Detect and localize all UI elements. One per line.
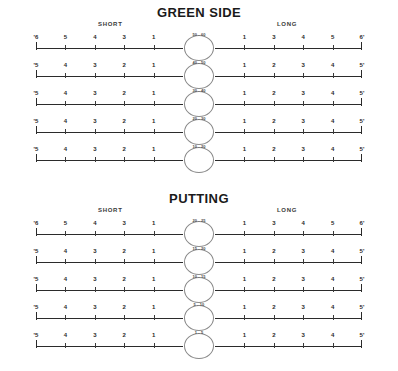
tick-mark [65, 129, 66, 134]
tick-mark [244, 157, 245, 162]
tick-label-left: 2 [123, 304, 126, 310]
target-circle[interactable] [184, 63, 214, 89]
tick-mark [124, 231, 125, 236]
axis-line-left [36, 104, 183, 105]
tick-mark [154, 101, 155, 106]
tick-mark [333, 157, 334, 162]
tick-label-left: 1 [152, 62, 155, 68]
tick-label-right: 1 [243, 118, 246, 124]
tick-mark [124, 73, 125, 78]
tick-label-right: 1 [243, 62, 246, 68]
tick-label-right: 2 [272, 146, 275, 152]
tick-label-left: 4 [64, 146, 67, 152]
target-circle[interactable] [184, 277, 214, 303]
target-circle[interactable] [184, 91, 214, 117]
tick-mark [154, 287, 155, 292]
tick-label-right: 3 [302, 332, 305, 338]
tick-label-left: 1 [152, 332, 155, 338]
tick-label-right: 1 [243, 304, 246, 310]
tick-mark [124, 129, 125, 134]
tick-label-right: 2 [272, 276, 275, 282]
axis-line-left [36, 318, 183, 319]
tick-mark [244, 315, 245, 320]
tick-label-left: 1 [152, 90, 155, 96]
tick-label-right: 1 [243, 220, 246, 226]
tick-mark [274, 45, 275, 50]
axis-endcap [36, 126, 37, 134]
target-circle[interactable] [184, 147, 214, 173]
tick-label-right: 2 [272, 332, 275, 338]
tick-mark [274, 101, 275, 106]
target-circle[interactable] [184, 333, 214, 359]
tick-mark [95, 157, 96, 162]
zone-label-short: SHORT [98, 21, 123, 27]
scale-row: '5432112345'5 - 10 [0, 302, 398, 330]
tick-label-left: 4 [64, 118, 67, 124]
tick-mark [333, 287, 334, 292]
tick-label-right: 3 [272, 34, 275, 40]
tick-mark [303, 231, 304, 236]
zone-label-long: LONG [277, 21, 297, 27]
tick-mark [333, 45, 334, 50]
zone-label-long: LONG [277, 207, 297, 213]
tick-label-left: 3 [93, 118, 96, 124]
tick-label-right: 4 [331, 62, 334, 68]
tick-mark [65, 315, 66, 320]
tick-mark [154, 259, 155, 264]
tick-mark [124, 157, 125, 162]
tick-mark [154, 315, 155, 320]
tick-label-left: 4 [93, 34, 96, 40]
target-circle[interactable] [184, 221, 214, 247]
axis-endpoint-label-left: '5 [34, 248, 39, 254]
tick-label-left: 4 [64, 332, 67, 338]
distance-range-label: 15 - 20 [192, 246, 205, 251]
tick-label-right: 2 [272, 248, 275, 254]
tick-label-right: 4 [331, 118, 334, 124]
scale-row: '6543113456'20 - 25 [0, 218, 398, 246]
tick-mark [303, 129, 304, 134]
target-circle[interactable] [184, 305, 214, 331]
tick-label-right: 3 [302, 304, 305, 310]
scale-row: '5432112345'1 - 5 [0, 330, 398, 358]
tick-mark [274, 259, 275, 264]
zone-label-short: SHORT [98, 207, 123, 213]
axis-endcap [36, 340, 37, 348]
target-circle[interactable] [184, 35, 214, 61]
tick-label-right: 4 [331, 90, 334, 96]
axis-endcap [361, 256, 362, 264]
tick-mark [95, 73, 96, 78]
distance-range-label: 40 - 50 [192, 60, 205, 65]
tick-label-right: 5 [331, 220, 334, 226]
distance-range-label: 5 - 10 [194, 302, 205, 307]
axis-endpoint-label-right: 5' [360, 146, 365, 152]
axis-endpoint-label-right: 5' [360, 304, 365, 310]
tick-mark [274, 129, 275, 134]
axis-line-right [215, 104, 362, 105]
tick-mark [303, 343, 304, 348]
axis-endcap [361, 312, 362, 320]
scale-row: '5432112345'30 - 40 [0, 88, 398, 116]
axis-endcap [36, 312, 37, 320]
tick-label-right: 4 [302, 34, 305, 40]
target-circle[interactable] [184, 119, 214, 145]
tick-mark [124, 287, 125, 292]
tick-mark [333, 315, 334, 320]
tick-mark [244, 343, 245, 348]
tick-label-right: 3 [302, 62, 305, 68]
tick-label-right: 2 [272, 62, 275, 68]
axis-line-right [215, 262, 362, 263]
tick-mark [95, 231, 96, 236]
tick-mark [65, 259, 66, 264]
tick-label-right: 1 [243, 90, 246, 96]
axis-line-right [215, 346, 362, 347]
target-circle[interactable] [184, 249, 214, 275]
tick-label-right: 4 [331, 146, 334, 152]
tick-mark [244, 231, 245, 236]
tick-label-right: 3 [302, 118, 305, 124]
tick-label-left: 3 [93, 304, 96, 310]
worksheet-root: GREEN SIDESHORTLONG'6543113456'50 - 60'5… [0, 0, 398, 358]
tick-mark [95, 315, 96, 320]
tick-mark [303, 259, 304, 264]
axis-endcap [361, 126, 362, 134]
tick-label-right: 1 [243, 146, 246, 152]
